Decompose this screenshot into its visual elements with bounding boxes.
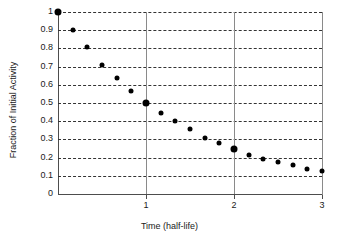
gridline — [58, 103, 322, 104]
data-point — [143, 100, 150, 107]
y-tick-label: 1 — [13, 6, 53, 16]
y-tick-label: 0.4 — [13, 115, 53, 125]
y-tick-label: 0.1 — [13, 170, 53, 180]
data-point — [231, 146, 238, 153]
data-point — [276, 160, 281, 165]
gridline — [58, 48, 322, 49]
x-tick-label: 1 — [136, 200, 156, 210]
y-tick-label: 0.7 — [13, 61, 53, 71]
gridline — [58, 121, 322, 122]
y-tick-label: 0.6 — [13, 79, 53, 89]
data-point — [202, 135, 207, 140]
gridline — [58, 176, 322, 177]
plot-area — [58, 12, 322, 194]
y-tick-label: 0.9 — [13, 24, 53, 34]
data-point — [290, 162, 295, 167]
x-axis-title: Time (half-life) — [0, 221, 339, 231]
data-point — [85, 44, 90, 49]
data-point — [320, 169, 325, 174]
data-point — [305, 166, 310, 171]
gridline — [58, 30, 322, 31]
gridline — [58, 158, 322, 159]
x-tick-label: 2 — [224, 200, 244, 210]
y-tick-label: 0.8 — [13, 42, 53, 52]
data-point — [129, 89, 134, 94]
gridline — [58, 85, 322, 86]
y-tick-label: 0 — [13, 188, 53, 198]
x-tickmark — [234, 195, 235, 199]
vertical-gridline — [234, 12, 235, 194]
data-point — [114, 76, 119, 81]
data-point — [158, 111, 163, 116]
y-tick-label: 0.5 — [13, 97, 53, 107]
data-point — [261, 156, 266, 161]
y-axis-title: Fraction of Initial Activity — [8, 35, 18, 185]
x-axis-line — [58, 194, 323, 195]
decay-chart: Fraction of Initial Activity Time (half-… — [0, 0, 339, 239]
x-tickmark — [146, 195, 147, 199]
data-point — [217, 141, 222, 146]
x-tickmark — [322, 195, 323, 199]
data-point — [246, 152, 251, 157]
y-tick-label: 0.2 — [13, 152, 53, 162]
y-tick-label: 0.3 — [13, 133, 53, 143]
plot-right-border — [322, 12, 323, 195]
data-point — [173, 119, 178, 124]
gridline — [58, 139, 322, 140]
data-point — [100, 62, 105, 67]
x-tick-label: 3 — [312, 200, 332, 210]
data-point — [188, 127, 193, 132]
gridline — [58, 12, 322, 13]
gridline — [58, 67, 322, 68]
data-point — [55, 9, 62, 16]
data-point — [70, 28, 75, 33]
